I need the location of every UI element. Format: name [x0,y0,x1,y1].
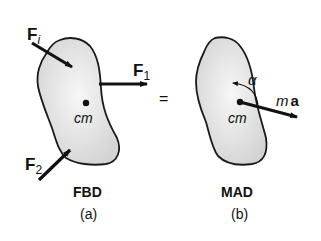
cm-label: cm [228,110,247,126]
rigid-body-shape [196,37,266,164]
center-of-mass-dot [237,99,243,105]
force-2-label: F2 [25,155,42,177]
rigid-body-shape [37,38,119,165]
mad-panel: α ma cm MAD (b) [196,37,300,222]
center-of-mass-dot [83,100,89,106]
force-i-label: Fi [27,25,40,47]
ma-label: ma [276,92,300,109]
alpha-label: α [248,71,257,88]
diagram-canvas: Fi F1 F2 cm FBD (a) = α ma cm MAD (b) [0,0,321,241]
caption-a: (a) [80,206,97,222]
force-2-arrow [39,150,70,180]
force-1-label: F1 [133,61,150,83]
equals-sign: = [159,90,168,107]
caption-b: (b) [231,206,248,222]
fbd-title: FBD [73,184,102,200]
fbd-panel: Fi F1 F2 cm FBD (a) [25,25,150,222]
mad-title: MAD [221,184,253,200]
cm-label: cm [74,110,93,126]
